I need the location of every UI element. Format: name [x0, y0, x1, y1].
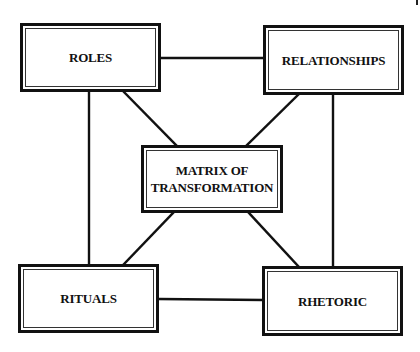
node-relationships: RELATIONSHIPS: [263, 25, 404, 95]
node-rhetoric: RHETORIC: [262, 266, 403, 336]
node-label-line: MATRIX OF: [151, 162, 274, 179]
node-roles: ROLES: [20, 23, 161, 92]
edge-rituals-rhetoric: [159, 299, 262, 300]
node-relationships-label: RELATIONSHIPS: [282, 52, 385, 69]
edge-relationships-matrix: [247, 95, 298, 145]
edge-rhetoric-matrix: [249, 213, 298, 266]
node-matrix-label: MATRIX OF TRANSFORMATION: [151, 162, 274, 196]
node-label-line: RHETORIC: [298, 293, 367, 310]
node-rituals: RITUALS: [18, 264, 159, 333]
node-rituals-label: RITUALS: [60, 290, 116, 307]
edge-rituals-matrix: [124, 213, 173, 264]
node-label-line: ROLES: [69, 49, 112, 66]
node-matrix-of-transformation: MATRIX OF TRANSFORMATION: [141, 145, 283, 213]
page-corner-mark: [416, 0, 418, 5]
diagram-canvas: ROLES RELATIONSHIPS MATRIX OF TRANSFORMA…: [0, 0, 420, 352]
node-roles-label: ROLES: [69, 49, 112, 66]
node-label-line: RITUALS: [60, 290, 116, 307]
node-rhetoric-label: RHETORIC: [298, 293, 367, 310]
node-label-line: RELATIONSHIPS: [282, 52, 385, 69]
node-label-line: TRANSFORMATION: [151, 179, 274, 196]
edge-roles-matrix: [124, 92, 176, 145]
